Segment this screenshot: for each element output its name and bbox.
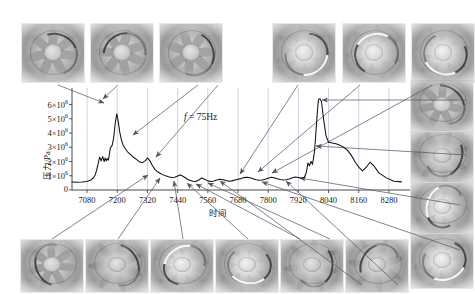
figure-root: 压力/Pa 时间 f = 75Hz 01×1062×1063×1064×1065…	[0, 0, 475, 294]
leader-line-5	[258, 85, 360, 172]
chart-gridlines	[87, 88, 389, 190]
x-tick-9: 8160	[347, 195, 371, 205]
x-axis-label: 时间	[209, 206, 227, 218]
x-tick-2: 7320	[135, 195, 159, 205]
y-tick-1: 1×106	[20, 170, 68, 181]
leader-line-2	[133, 85, 198, 135]
pressure-time-chart	[0, 0, 475, 294]
y-tick-4: 4×106	[20, 127, 68, 138]
x-tick-4: 7560	[196, 195, 220, 205]
leader-line-4	[240, 85, 298, 174]
frequency-value: = 75Hz	[189, 112, 217, 122]
pressure-curve	[72, 99, 401, 182]
x-tick-0: 7080	[75, 195, 99, 205]
annotation-leader-lines	[52, 85, 466, 285]
leader-line-8	[316, 146, 466, 155]
frequency-annotation: f = 75Hz	[184, 112, 217, 122]
leader-line-1	[103, 85, 118, 99]
x-tick-3: 7440	[166, 195, 190, 205]
leader-line-6	[272, 85, 432, 173]
x-tick-6: 7800	[256, 195, 280, 205]
x-tick-10: 8280	[377, 195, 401, 205]
leader-line-12	[118, 178, 160, 239]
x-tick-8: 8040	[317, 195, 341, 205]
x-tick-7: 7920	[286, 195, 310, 205]
y-tick-3: 3×106	[20, 141, 68, 152]
x-tick-5: 7680	[226, 195, 250, 205]
y-tick-6: 6×106	[20, 99, 68, 110]
y-tick-0: 0	[20, 184, 68, 194]
x-tick-1: 7200	[105, 195, 129, 205]
y-tick-2: 2×106	[20, 156, 68, 167]
y-tick-5: 5×106	[20, 113, 68, 124]
leader-line-10	[262, 182, 460, 250]
frequency-symbol: f	[184, 112, 187, 122]
